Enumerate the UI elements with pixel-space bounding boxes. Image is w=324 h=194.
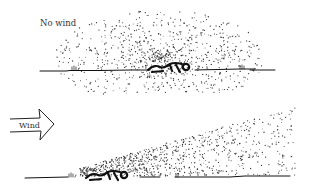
wind-label: Wind [19,121,40,130]
wind-panel: Wind [0,97,324,194]
ground-line [25,173,290,178]
no-wind-panel: No wind [0,0,324,97]
scent-plume-dots [79,108,295,177]
no-wind-illustration [0,0,324,97]
prone-person-icon [148,63,189,72]
scent-cloud-dots [56,11,262,95]
wind-illustration: Wind [0,97,324,194]
